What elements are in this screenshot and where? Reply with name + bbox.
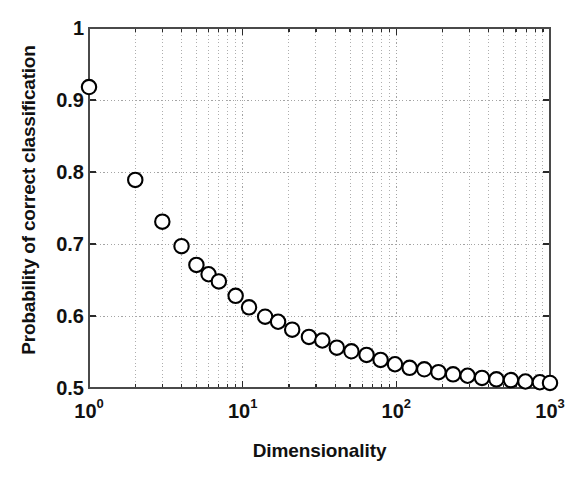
chart-figure: Probability of correct classification 0.… — [0, 0, 585, 483]
data-point — [504, 373, 518, 387]
data-point — [242, 300, 256, 314]
data-point — [388, 357, 402, 371]
data-point — [431, 365, 445, 379]
data-point — [228, 289, 242, 303]
data-point — [128, 173, 142, 187]
data-point — [446, 367, 460, 381]
data-point — [518, 374, 532, 388]
data-point — [189, 258, 203, 272]
data-point — [417, 362, 431, 376]
data-point — [402, 361, 416, 375]
data-point — [344, 344, 358, 358]
plot-area — [0, 0, 585, 483]
data-point — [302, 330, 316, 344]
data-point — [285, 322, 299, 336]
data-point — [174, 239, 188, 253]
data-point — [82, 80, 96, 94]
data-point — [489, 372, 503, 386]
data-point — [373, 353, 387, 367]
data-point — [460, 369, 474, 383]
data-point — [271, 315, 285, 329]
data-point — [315, 333, 329, 347]
data-point — [359, 348, 373, 362]
data-point — [212, 274, 226, 288]
data-markers — [82, 80, 557, 390]
data-point — [475, 371, 489, 385]
data-point — [155, 214, 169, 228]
data-point — [543, 376, 557, 390]
data-point — [330, 340, 344, 354]
